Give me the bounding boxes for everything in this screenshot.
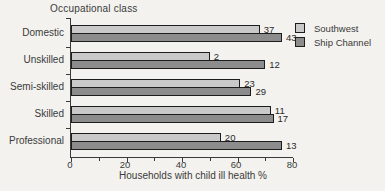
legend-entry-southwest: Southwest	[295, 23, 371, 33]
x-axis-minor-tick	[154, 158, 155, 161]
bar-ship-channel	[71, 60, 265, 69]
chart-title: Occupational class	[50, 3, 138, 14]
bar-row: 12	[71, 60, 293, 69]
bar-ship-channel	[71, 87, 251, 96]
bar-group-skilled: 11 17	[71, 106, 293, 123]
y-axis-tick	[66, 74, 70, 75]
legend-swatch-southwest	[295, 23, 305, 33]
x-axis-minor-tick	[265, 158, 266, 161]
bar-row: 29	[71, 87, 293, 96]
x-tick-label: 60	[226, 159, 246, 170]
legend-entry-ship-channel: Ship Channel	[295, 37, 371, 47]
bar-group-unskilled: 2 12	[71, 52, 293, 69]
category-label-unskilled: Unskilled	[0, 54, 64, 66]
x-axis-title: Households with child ill health %	[78, 170, 308, 181]
y-axis-tick	[66, 128, 70, 129]
bar-value-label: 29	[255, 87, 266, 96]
bar-row: 13	[71, 141, 293, 150]
x-tick-label: 0	[60, 159, 80, 170]
x-axis-minor-tick	[99, 158, 100, 161]
x-axis-minor-tick	[210, 158, 211, 161]
category-label-domestic: Domestic	[0, 27, 64, 39]
bar-value-label: 13	[286, 141, 297, 150]
category-label-professional: Professional	[0, 135, 64, 147]
legend-label-southwest: Southwest	[314, 23, 358, 34]
bar-group-domestic: 37 43	[71, 25, 293, 42]
bar-ship-channel	[71, 114, 274, 123]
legend-swatch-ship-channel	[295, 37, 305, 47]
x-tick-label: 80	[282, 159, 302, 170]
bar-group-professional: 20 13	[71, 133, 293, 150]
bar-group-semi-skilled: 23 29	[71, 79, 293, 96]
bar-value-label: 12	[269, 60, 280, 69]
bar-chart-figure: Occupational class Domestic Unskilled Se…	[0, 0, 385, 191]
legend: Southwest Ship Channel	[295, 23, 371, 51]
plot-area: 37 43 2 12 23	[70, 18, 293, 158]
category-label-semi-skilled: Semi-skilled	[0, 81, 64, 93]
bar-row: 43	[71, 33, 293, 42]
bar-ship-channel	[71, 33, 282, 42]
category-label-skilled: Skilled	[0, 108, 64, 120]
y-axis-tick	[66, 18, 70, 19]
bar-row: 17	[71, 114, 293, 123]
y-axis-tick	[66, 47, 70, 48]
y-axis-tick	[66, 101, 70, 102]
bar-ship-channel	[71, 141, 282, 150]
bar-value-label: 17	[278, 114, 289, 123]
x-tick-label: 40	[171, 159, 191, 170]
x-tick-label: 20	[115, 159, 135, 170]
legend-label-ship-channel: Ship Channel	[314, 37, 371, 48]
